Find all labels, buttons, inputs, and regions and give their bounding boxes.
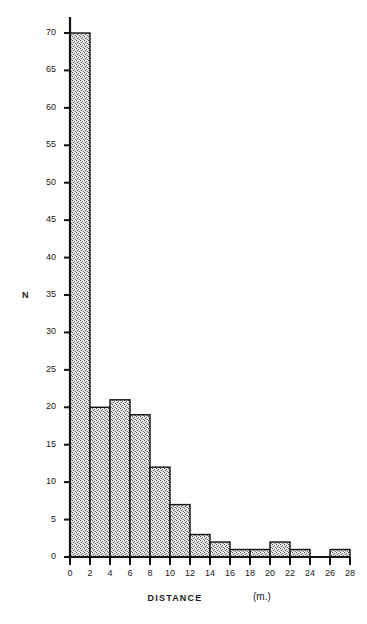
x-tick-label: 18 bbox=[242, 569, 258, 578]
x-tick-label: 4 bbox=[102, 569, 118, 578]
histogram-bar bbox=[210, 542, 230, 557]
y-tick-label: 70 bbox=[36, 28, 56, 37]
histogram-bar bbox=[70, 33, 90, 557]
histogram-bar bbox=[90, 407, 110, 557]
y-tick-label: 65 bbox=[36, 65, 56, 74]
y-tick-label: 25 bbox=[36, 365, 56, 374]
histogram-bar bbox=[230, 550, 250, 557]
x-tick-label: 0 bbox=[62, 569, 78, 578]
plot-surface bbox=[0, 0, 367, 624]
y-tick-label: 55 bbox=[36, 140, 56, 149]
y-tick-label: 10 bbox=[36, 477, 56, 486]
y-tick-label: 45 bbox=[36, 215, 56, 224]
bars-group bbox=[70, 33, 350, 557]
histogram-bar bbox=[190, 535, 210, 557]
x-tick-label: 12 bbox=[182, 569, 198, 578]
histogram-bar bbox=[130, 415, 150, 557]
y-tick-label: 40 bbox=[36, 253, 56, 262]
y-tick-label: 35 bbox=[36, 290, 56, 299]
y-tick-label: 50 bbox=[36, 178, 56, 187]
histogram-bar bbox=[110, 400, 130, 557]
x-axis-title: DISTANCE bbox=[148, 593, 203, 603]
histogram-bar bbox=[290, 550, 310, 557]
histogram-bar bbox=[330, 550, 350, 557]
x-tick-label: 24 bbox=[302, 569, 318, 578]
x-tick-label: 2 bbox=[82, 569, 98, 578]
x-tick-label: 14 bbox=[202, 569, 218, 578]
x-tick-label: 10 bbox=[162, 569, 178, 578]
x-tick-label: 26 bbox=[322, 569, 338, 578]
histogram-bar bbox=[150, 467, 170, 557]
y-tick-label: 30 bbox=[36, 327, 56, 336]
histogram-bar bbox=[170, 505, 190, 557]
x-tick-marks bbox=[70, 557, 350, 565]
x-tick-label: 8 bbox=[142, 569, 158, 578]
x-tick-label: 20 bbox=[262, 569, 278, 578]
x-tick-label: 6 bbox=[122, 569, 138, 578]
y-tick-label: 60 bbox=[36, 103, 56, 112]
y-tick-label: 20 bbox=[36, 402, 56, 411]
x-tick-label: 28 bbox=[342, 569, 358, 578]
histogram-figure: N bbox=[0, 0, 367, 624]
y-tick-label: 15 bbox=[36, 440, 56, 449]
y-axis-title: N bbox=[22, 290, 29, 300]
histogram-bar bbox=[270, 542, 290, 557]
x-tick-label: 16 bbox=[222, 569, 238, 578]
x-tick-label: 22 bbox=[282, 569, 298, 578]
histogram-bar bbox=[250, 550, 270, 557]
y-tick-label: 0 bbox=[36, 552, 56, 561]
y-tick-label: 5 bbox=[36, 515, 56, 524]
x-axis-unit: (m.) bbox=[253, 591, 271, 602]
